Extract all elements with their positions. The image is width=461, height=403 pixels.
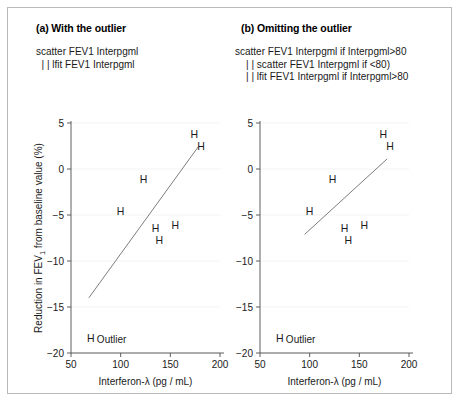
data-point-marker: H xyxy=(172,219,180,231)
y-tick-label: −10 xyxy=(47,256,64,267)
y-tick-label: −20 xyxy=(47,348,64,359)
x-tick-label: 150 xyxy=(162,359,179,370)
x-tick-label: 50 xyxy=(254,359,266,370)
data-point-marker: H xyxy=(386,140,394,152)
panel-b-svg: 50−5−10−15−2050100150200HHHHHHHHOutlierI… xyxy=(221,8,443,393)
panel-b-plot: 50−5−10−15−2050100150200HHHHHHHHOutlierI… xyxy=(221,8,443,393)
axis-lines xyxy=(71,121,224,353)
panel-a-plot: 50−5−10−15−2050100150200HHHHHHHHOutlierI… xyxy=(8,8,230,393)
y-tick-label: −5 xyxy=(53,210,65,221)
x-tick-label: 150 xyxy=(351,359,368,370)
svg-text:Reduction in FEV1 from baselin: Reduction in FEV1 from baseline value (%… xyxy=(33,143,47,333)
y-tick-label: 5 xyxy=(247,118,253,129)
data-point-marker: H xyxy=(361,219,369,231)
y-tick-label: −5 xyxy=(242,210,254,221)
outlier-annotation-label: Outlier xyxy=(286,334,316,345)
y-tick-label: −20 xyxy=(236,348,253,359)
data-point-marker: H xyxy=(156,234,164,246)
y-tick-label: −15 xyxy=(236,302,253,313)
x-tick-label: 100 xyxy=(301,359,318,370)
data-point-outlier: H xyxy=(87,332,95,344)
data-point-marker: H xyxy=(117,205,125,217)
data-point-marker: H xyxy=(140,173,148,185)
data-point-marker: H xyxy=(152,222,160,234)
data-point-marker: H xyxy=(345,234,353,246)
y-tick-label: 0 xyxy=(58,164,64,175)
y-tick-label: −10 xyxy=(236,256,253,267)
panel-a-svg: 50−5−10−15−2050100150200HHHHHHHHOutlierI… xyxy=(8,8,230,393)
data-point-marker: H xyxy=(197,140,205,152)
y-tick-label: −15 xyxy=(47,302,64,313)
y-tick-label: 5 xyxy=(58,118,64,129)
figure-border: (a) With the outlier scatter FEV1 Interp… xyxy=(7,7,452,394)
outlier-annotation-label: Outlier xyxy=(97,334,127,345)
axis-lines xyxy=(260,121,413,353)
data-point-marker: H xyxy=(329,173,337,185)
y-tick-label: 0 xyxy=(247,164,253,175)
x-axis-title: Interferon-λ (pg / mL) xyxy=(99,376,193,387)
data-point-marker: H xyxy=(341,222,349,234)
fit-line xyxy=(89,147,198,298)
x-tick-label: 50 xyxy=(65,359,77,370)
x-tick-label: 200 xyxy=(401,359,418,370)
data-point-marker: H xyxy=(190,128,198,140)
x-axis-title: Interferon-λ (pg / mL) xyxy=(288,376,382,387)
panel-a: (a) With the outlier scatter FEV1 Interp… xyxy=(8,8,230,393)
data-point-marker: H xyxy=(306,205,314,217)
data-point-outlier: H xyxy=(276,332,284,344)
x-tick-label: 100 xyxy=(112,359,129,370)
y-axis-title: Reduction in FEV1 from baseline value (%… xyxy=(33,143,47,333)
panel-b: (b) Omitting the outlier scatter FEV1 In… xyxy=(221,8,443,393)
data-point-marker: H xyxy=(379,128,387,140)
